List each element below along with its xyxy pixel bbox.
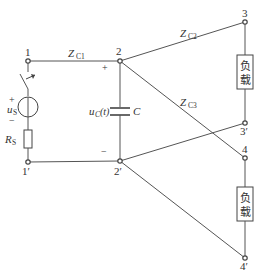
svg-text:S: S: [12, 138, 16, 147]
terminal-4: [243, 156, 247, 160]
label-zc1: Z C1: [68, 47, 85, 61]
cap-minus-sign: −: [101, 146, 107, 157]
terminal-1: [26, 59, 30, 63]
resistor-rs-icon: [24, 130, 32, 148]
label-capacitor-c: C: [133, 105, 141, 117]
voltage-source-icon: [18, 97, 38, 117]
label-node-2: 2: [116, 45, 122, 57]
label-zc2: Z C2: [180, 27, 197, 41]
svg-text:Z: Z: [68, 47, 75, 59]
svg-text:C1: C1: [76, 52, 85, 61]
load-2-char1: 负: [240, 191, 251, 204]
svg-text:Z: Z: [180, 96, 187, 108]
label-node-1: 1: [25, 46, 31, 58]
circuit-diagram: 1 1′ 2 2′ 3 3′ 4 4′ Z C1 Z C2 Z C3 + u S…: [0, 0, 264, 280]
svg-text:C2: C2: [188, 32, 197, 41]
svg-text:C3: C3: [188, 101, 197, 110]
svg-text:(t): (t): [100, 106, 110, 118]
svg-text:R: R: [4, 133, 12, 145]
label-rs: R S: [4, 133, 16, 147]
switch-icon: [20, 74, 35, 96]
svg-text:Z: Z: [180, 27, 187, 39]
wire-1p-2p: [28, 161, 120, 162]
label-node-4p: 4′: [240, 260, 248, 272]
label-node-3p: 3′: [240, 125, 248, 137]
terminal-2: [118, 59, 122, 63]
load-1-char1: 负: [240, 59, 251, 72]
load-2-char2: 载: [240, 206, 251, 218]
label-node-1p: 1′: [22, 165, 30, 177]
cap-plus-sign: +: [102, 62, 108, 73]
source-minus-sign: −: [9, 115, 15, 126]
label-zc3: Z C3: [180, 96, 197, 110]
terminal-2p: [118, 159, 122, 163]
label-node-4: 4: [242, 143, 248, 155]
label-node-3: 3: [242, 7, 248, 19]
capacitor-icon: [110, 108, 130, 115]
label-node-2p: 2′: [114, 165, 122, 177]
terminal-3: [243, 20, 247, 24]
line-zc3-bottom: [120, 161, 245, 258]
line-zc2-bottom: [120, 123, 245, 161]
terminal-1p: [26, 160, 30, 164]
label-uc-t: u C (t): [89, 105, 110, 119]
load-1-char2: 载: [240, 74, 251, 86]
